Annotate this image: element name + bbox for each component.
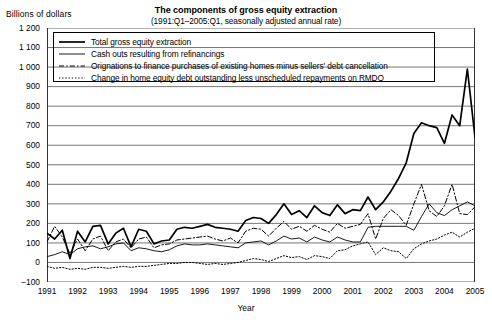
legend-item: Cash outs resulting from refinancings — [58, 48, 224, 60]
chart-subtitle: (1991:Q1–2005:Q1, seasonally adjusted an… — [0, 16, 492, 26]
y-tick-label: 700 — [0, 121, 40, 129]
legend-label: Change in home equity debt outstanding l… — [91, 74, 384, 83]
y-tick-label: 0 — [0, 258, 40, 266]
y-tick-label: 1 200 — [0, 24, 40, 32]
y-tick-label: 900 — [0, 82, 40, 90]
legend-line-sample — [58, 37, 86, 47]
legend-label: Total gross equity extraction — [91, 38, 191, 47]
legend-line-sample — [58, 61, 86, 71]
series-line-3 — [47, 228, 475, 269]
y-tick-label: 600 — [0, 141, 40, 149]
y-tick-label: 1 100 — [0, 43, 40, 51]
legend-item: Total gross equity extraction — [58, 36, 191, 48]
legend-label: Cash outs resulting from refinancings — [91, 50, 224, 59]
y-tick-label: 100 — [0, 239, 40, 247]
chart-title: The components of gross equity extractio… — [0, 5, 492, 15]
legend-line-sample — [58, 73, 86, 83]
x-tick-label: 2005 — [455, 287, 492, 295]
y-tick-label: 500 — [0, 161, 40, 169]
x-axis-title: Year — [0, 303, 492, 313]
legend-item: Change in home equity debt outstanding l… — [58, 72, 384, 84]
legend-line-sample — [58, 49, 86, 59]
y-tick-label: 300 — [0, 200, 40, 208]
y-tick-label: −100 — [0, 278, 40, 286]
series-line-1 — [47, 202, 475, 257]
y-tick-label: 1 000 — [0, 63, 40, 71]
legend-label: Orignations to finance purchases of exis… — [91, 62, 388, 71]
chart-legend: Total gross equity extractionCash outs r… — [53, 32, 435, 82]
series-line-0 — [47, 69, 475, 259]
y-tick-label: 200 — [0, 219, 40, 227]
y-tick-label: 400 — [0, 180, 40, 188]
legend-item: Orignations to finance purchases of exis… — [58, 60, 388, 72]
y-tick-label: 800 — [0, 102, 40, 110]
chart-figure: Billions of dollars The components of gr… — [0, 0, 492, 323]
